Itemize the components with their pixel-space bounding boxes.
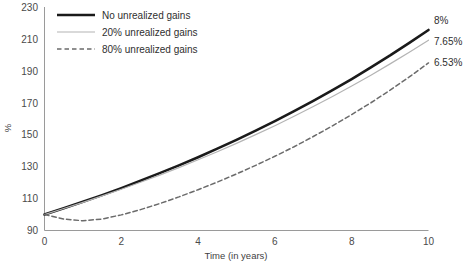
y-tick-label: 130 bbox=[21, 161, 38, 172]
series-end-label-1: 7.65% bbox=[434, 36, 462, 47]
series-end-label-0: 8% bbox=[434, 15, 449, 26]
series-line-2 bbox=[45, 63, 429, 221]
y-tick-label: 190 bbox=[21, 66, 38, 77]
y-tick-label: 110 bbox=[22, 193, 38, 204]
x-tick-label: 10 bbox=[423, 236, 435, 247]
y-tick-label: 90 bbox=[27, 225, 39, 236]
x-tick-label: 6 bbox=[272, 236, 278, 247]
y-axis-title: % bbox=[2, 123, 13, 132]
series-end-label-2: 6.53% bbox=[434, 57, 462, 68]
y-tick-labels: 90110130150170190210230 bbox=[21, 2, 38, 236]
x-tick-labels: 0246810 bbox=[42, 236, 435, 247]
legend-label-0: No unrealized gains bbox=[102, 10, 190, 21]
x-tick-label: 4 bbox=[195, 236, 201, 247]
data-series-group bbox=[45, 30, 429, 221]
line-chart: 90110130150170190210230 0246810 8%7.65%6… bbox=[0, 0, 471, 264]
legend-label-2: 80% unrealized gains bbox=[102, 44, 198, 55]
x-axis-title: Time (in years) bbox=[205, 250, 268, 261]
y-tick-label: 150 bbox=[21, 129, 38, 140]
x-tick-label: 0 bbox=[42, 236, 48, 247]
series-end-labels: 8%7.65%6.53% bbox=[434, 15, 462, 68]
chart-legend: No unrealized gains20% unrealized gains8… bbox=[57, 10, 198, 55]
x-tick-label: 2 bbox=[119, 236, 125, 247]
legend-label-1: 20% unrealized gains bbox=[102, 27, 198, 38]
y-tick-label: 210 bbox=[21, 34, 38, 45]
x-tick-label: 8 bbox=[349, 236, 355, 247]
chart-container: 90110130150170190210230 0246810 8%7.65%6… bbox=[0, 0, 471, 264]
series-line-0 bbox=[45, 30, 429, 215]
y-tick-label: 230 bbox=[21, 2, 38, 13]
y-tick-label: 170 bbox=[21, 98, 38, 109]
